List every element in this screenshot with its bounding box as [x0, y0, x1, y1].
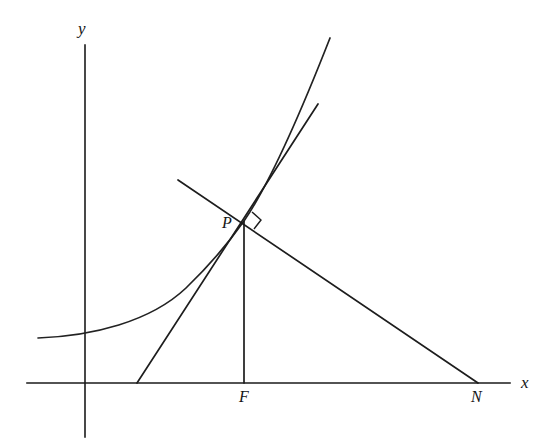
exponential-curve	[38, 38, 330, 338]
y-axis-label: y	[78, 20, 86, 37]
figure-canvas	[0, 0, 549, 443]
right-angle-icon	[252, 212, 261, 229]
point-label-f: F	[239, 389, 249, 405]
geometry-figure: y x P F N	[0, 0, 549, 443]
normal-line	[178, 180, 478, 383]
point-label-p: P	[222, 215, 232, 231]
point-label-n: N	[471, 389, 482, 405]
x-axis-label: x	[521, 374, 529, 391]
tangent-line	[137, 104, 318, 383]
